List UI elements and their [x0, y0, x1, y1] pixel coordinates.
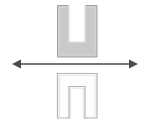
figure-svg: [0, 0, 147, 120]
lower-n-notch: [69, 86, 85, 119]
upper-u-notch: [69, 4, 85, 42]
arrow-head-left-icon: [12, 60, 21, 69]
lower-n-shape: [58, 74, 98, 120]
arrow-head-right-icon: [129, 60, 138, 69]
upper-u-shape: [58, 4, 98, 57]
reflection-figure-canvas: [0, 0, 147, 120]
mirror-axis-arrow: [12, 60, 138, 69]
